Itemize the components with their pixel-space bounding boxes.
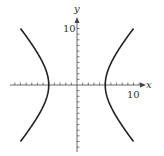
x-tick-label-10: 10 bbox=[127, 89, 140, 100]
y-tick-label-10: 10 bbox=[63, 23, 76, 34]
hyperbola-chart: x y 10 10 bbox=[0, 0, 164, 156]
x-axis-label: x bbox=[146, 79, 152, 90]
y-axis-label: y bbox=[73, 3, 80, 14]
chart-canvas: x y 10 10 bbox=[0, 0, 164, 156]
